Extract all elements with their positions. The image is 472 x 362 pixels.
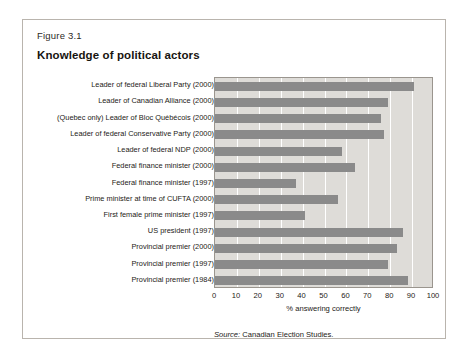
gridline-40 <box>303 78 304 287</box>
bar <box>215 98 388 107</box>
category-label: Federal finance minister (2000) <box>112 161 214 171</box>
gridline-90 <box>412 78 413 287</box>
category-label: US president (1997) <box>148 226 214 236</box>
bar <box>215 147 342 156</box>
x-tick-label: 10 <box>232 291 240 300</box>
source-text: Canadian Election Studies. <box>240 330 333 339</box>
category-label: Leader of Canadian Alliance (2000) <box>98 96 214 106</box>
bar <box>215 163 355 172</box>
bar <box>215 244 397 253</box>
x-tick-label: 100 <box>427 291 440 300</box>
bar-chart: Leader of federal Liberal Party (2000)Le… <box>23 77 447 317</box>
gridline-80 <box>390 78 391 287</box>
gridline-50 <box>325 78 326 287</box>
x-tick-label: 70 <box>363 291 371 300</box>
figure-number: Figure 3.1 <box>37 30 82 41</box>
source-label: Source: <box>214 330 240 339</box>
figure-card: Figure 3.1 Knowledge of political actors… <box>22 19 446 339</box>
category-label: Provincial premier (1997) <box>131 259 214 269</box>
category-label: Provincial premier (1984) <box>131 275 214 285</box>
bar <box>215 114 381 123</box>
category-label: (Quebec only) Leader of Bloc Québécois (… <box>57 113 214 123</box>
bar <box>215 211 305 220</box>
category-label: Prime minister at time of CUFTA (2000) <box>85 194 214 204</box>
category-label: Leader of federal Conservative Party (20… <box>70 129 214 139</box>
x-axis-title: % answering correctly <box>214 304 433 313</box>
bar <box>215 130 384 139</box>
x-tick-label: 20 <box>254 291 262 300</box>
bar <box>215 195 338 204</box>
plot-area <box>214 77 433 288</box>
x-tick-label: 30 <box>275 291 283 300</box>
gridline-70 <box>368 78 369 287</box>
category-label: Leader of federal Liberal Party (2000) <box>91 80 214 90</box>
x-tick-label: 0 <box>212 291 216 300</box>
x-tick-label: 50 <box>319 291 327 300</box>
page-title: Knowledge of political actors <box>37 49 200 61</box>
gridline-60 <box>346 78 347 287</box>
bar <box>215 179 296 188</box>
x-tick-label: 60 <box>341 291 349 300</box>
category-label: Leader of federal NDP (2000) <box>117 145 214 155</box>
bar <box>215 82 414 91</box>
category-label: Federal finance minister (1997) <box>112 178 214 188</box>
category-label: First female prime minister (1997) <box>104 210 214 220</box>
x-tick-label: 40 <box>297 291 305 300</box>
x-tick-label: 80 <box>385 291 393 300</box>
x-tick-label: 90 <box>407 291 415 300</box>
bar <box>215 228 403 237</box>
category-label: Provincial premier (2000) <box>131 242 214 252</box>
gridline-100 <box>434 78 435 287</box>
bar <box>215 276 408 285</box>
bar <box>215 260 388 269</box>
source-note: Source: Canadian Election Studies. <box>214 330 333 339</box>
